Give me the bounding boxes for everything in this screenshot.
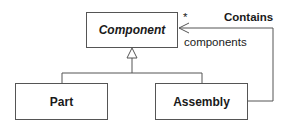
association-name-label: Contains	[224, 11, 273, 23]
class-part: Part	[15, 83, 108, 120]
class-part-name: Part	[50, 95, 73, 109]
generalization-edges	[62, 58, 202, 83]
inheritance-triangle-icon	[127, 48, 137, 58]
class-assembly: Assembly	[155, 83, 248, 120]
class-component-name: Component	[99, 23, 166, 37]
class-assembly-name: Assembly	[173, 95, 230, 109]
class-component: Component	[86, 12, 178, 48]
multiplicity-label: *	[183, 11, 187, 23]
role-name-label: components	[184, 36, 247, 48]
